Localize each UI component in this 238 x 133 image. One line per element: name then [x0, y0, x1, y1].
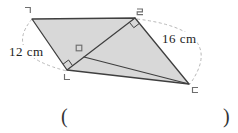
point-label-mieum [75, 44, 83, 52]
measurement-left-side: 12 cm [9, 45, 44, 58]
vertex-label-nieun [63, 73, 71, 81]
digeut-glyph-icon [191, 86, 199, 94]
vertex-label-giyeok [24, 6, 32, 14]
nieun-glyph-icon [63, 73, 71, 81]
quadrilateral-shape [32, 18, 189, 84]
quadrilateral-diagram [0, 0, 238, 133]
measurement-right-side: 16 cm [162, 32, 197, 45]
vertex-label-rieul [136, 8, 144, 16]
mieum-glyph-icon [75, 44, 83, 52]
giyeok-glyph-icon [24, 6, 32, 14]
answer-close-paren: ) [223, 105, 230, 127]
answer-open-paren: ( [61, 105, 68, 127]
rieul-glyph-icon [136, 8, 144, 16]
vertex-label-digeut [191, 86, 199, 94]
geometry-worksheet-figure: 12 cm 16 cm ( ) [0, 0, 238, 133]
